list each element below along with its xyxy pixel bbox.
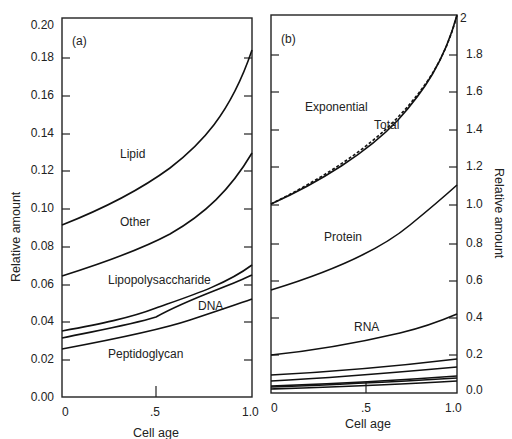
svg-text:0.8: 0.8 [466, 236, 483, 250]
svg-text:1.0: 1.0 [466, 197, 483, 211]
svg-text:1.4: 1.4 [466, 122, 483, 136]
label-lps: Lipopolysaccharide [108, 273, 211, 287]
label-exponential: Exponential [305, 100, 368, 114]
svg-text:0.12: 0.12 [31, 163, 55, 177]
curve-b-lps [271, 376, 457, 386]
label-other: Other [120, 215, 150, 229]
curve-peptidoglycan [62, 299, 252, 349]
svg-text:0.06: 0.06 [31, 277, 55, 291]
svg-text:1.6: 1.6 [466, 84, 483, 98]
svg-text:1.2: 1.2 [466, 159, 483, 173]
panel-b-xtick-1: 1.0 [445, 401, 462, 415]
svg-text:0.6: 0.6 [466, 273, 483, 287]
svg-text:1.8: 1.8 [466, 47, 483, 61]
curve-other [62, 153, 252, 276]
label-dna: DNA [198, 299, 223, 313]
label-rna: RNA [354, 320, 379, 334]
panel-b-ytick-labels: 0.0 0.2 0.4 0.6 0.8 1.0 1.2 1.4 1.6 1.8 … [460, 11, 483, 397]
panel-a-label: (a) [72, 34, 87, 48]
panel-a-xtick-1: 1.0 [242, 405, 259, 419]
panel-b-label: (b) [281, 32, 296, 46]
label-protein: Protein [324, 230, 362, 244]
panel-a-curves [62, 50, 252, 349]
svg-text:0.18: 0.18 [31, 50, 55, 64]
panel-a-frame [62, 18, 252, 397]
label-peptidoglycan: Peptidoglycan [108, 347, 183, 361]
svg-text:0.4: 0.4 [466, 310, 483, 324]
curve-lipid [62, 50, 252, 225]
svg-text:0.20: 0.20 [31, 18, 55, 32]
panel-a-ylabel: Relative amount [9, 191, 23, 282]
panel-a-xlabel: Cell age [133, 426, 179, 439]
panel-b-xtick-mid: .5 [361, 401, 371, 415]
panel-a-xtick-mid: .5 [150, 405, 160, 419]
curve-protein [271, 185, 457, 290]
svg-text:0.02: 0.02 [31, 352, 55, 366]
label-lipid: Lipid [120, 147, 145, 161]
svg-text:0.2: 0.2 [466, 347, 483, 361]
svg-text:0.16: 0.16 [31, 88, 55, 102]
panel-a-ytick-labels: 0.00 0.02 0.04 0.06 0.08 0.10 0.12 0.14 … [31, 18, 55, 404]
panel-b: (b) 0.0 0.2 0.4 [271, 11, 506, 431]
svg-text:0.14: 0.14 [31, 126, 55, 140]
curve-b-lipid [271, 359, 457, 375]
panel-a-xtick-0: 0 [62, 405, 69, 419]
panel-b-frame [271, 15, 457, 393]
svg-text:0.08: 0.08 [31, 239, 55, 253]
panel-a: (a) 0.00 0.02 0.04 [9, 18, 259, 439]
svg-text:0.04: 0.04 [31, 314, 55, 328]
panel-b-xlabel: Cell age [345, 417, 391, 431]
panel-b-xtick-0: 0 [271, 401, 278, 415]
label-total: Total [374, 118, 399, 132]
figure: (a) 0.00 0.02 0.04 [0, 0, 512, 439]
svg-text:2: 2 [460, 11, 467, 25]
panel-b-ylabel: Relative amount [492, 168, 506, 259]
svg-text:0.10: 0.10 [31, 201, 55, 215]
svg-text:0.00: 0.00 [31, 390, 55, 404]
svg-text:0.0: 0.0 [466, 383, 483, 397]
